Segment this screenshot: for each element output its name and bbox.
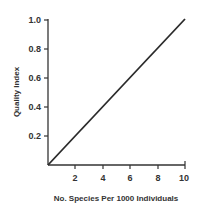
data-line [48,19,185,165]
line-chart: 1.0 0.8 0.6 0.4 0.2 2 4 6 8 10 No. Speci… [0,0,200,216]
x-tick-label: 6 [127,173,132,183]
y-tick-label: 0.2 [28,131,41,141]
y-tick-label: 0.4 [28,102,41,112]
x-tick-label: 10 [179,173,189,183]
y-axis-label: Quality Index [12,66,21,117]
x-tick-label: 8 [155,173,160,183]
x-axis-label: No. Species Per 1000 Individuals [54,194,179,203]
x-tick-label: 2 [72,173,77,183]
y-tick-label: 0.6 [28,73,41,83]
x-tick-labels: 2 4 6 8 10 [72,173,189,183]
x-tick-label: 4 [100,173,105,183]
y-tick-labels: 1.0 0.8 0.6 0.4 0.2 [28,15,41,141]
y-tick-label: 0.8 [28,44,41,54]
y-tick-label: 1.0 [28,15,41,25]
